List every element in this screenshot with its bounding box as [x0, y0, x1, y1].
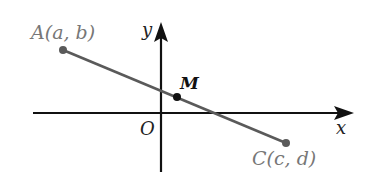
- coordinate-diagram: A(a, b) M C(c, d) y x O: [0, 0, 369, 187]
- point-m-label: M: [179, 73, 200, 93]
- point-m: [173, 93, 181, 101]
- point-a-label: A(a, b): [29, 21, 95, 43]
- origin-label: O: [140, 118, 155, 139]
- point-c-label: C(c, d): [252, 147, 316, 169]
- x-axis-label: x: [336, 117, 346, 138]
- point-a: [59, 46, 67, 54]
- point-c: [282, 139, 290, 147]
- y-axis-label: y: [141, 19, 153, 40]
